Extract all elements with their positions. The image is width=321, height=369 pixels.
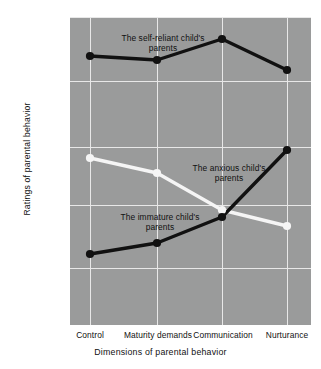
gridline-horizontal-very-high [70, 17, 311, 18]
chart-container: Very high High Average Low Very low Extr… [0, 0, 321, 369]
x-tick-label-control: Control [76, 330, 104, 340]
x-tick-label-maturity-demands: Maturity demands [124, 330, 192, 340]
gridline-vertical-nurturance [287, 17, 288, 325]
gridline-horizontal-high [70, 81, 311, 82]
gridline-horizontal-low [70, 205, 311, 206]
gridline-vertical-maturity-demands [157, 17, 158, 325]
x-tick-label-nurturance: Nurturance [266, 330, 308, 340]
annotation-immature: The immature child's parents [121, 212, 200, 232]
x-tick-label-communication: Communication [193, 330, 252, 340]
plot-area [70, 17, 311, 325]
annotation-self-reliant: The self-reliant child's parents [121, 33, 204, 53]
annotation-anxious: The anxious child's parents [193, 163, 266, 183]
gridline-vertical-control [90, 17, 91, 325]
x-axis-title: Dimensions of parental behavior [0, 347, 321, 357]
gridline-horizontal-very-low [70, 268, 311, 269]
gridline-horizontal-average [70, 147, 311, 148]
y-axis-title: Ratings of parental behavior [22, 69, 32, 249]
